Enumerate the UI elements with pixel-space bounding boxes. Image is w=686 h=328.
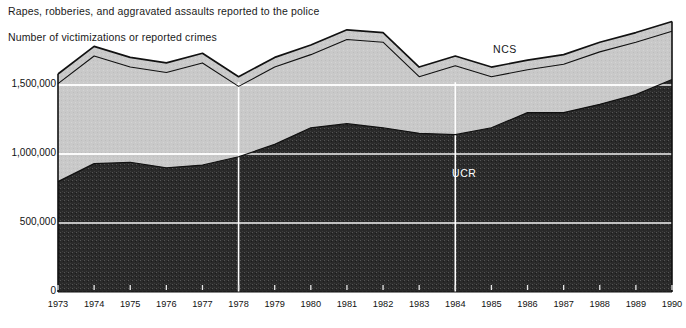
ncs-outline xyxy=(58,22,672,77)
series-label-ncs: NCS xyxy=(493,43,517,55)
x-axis-tick-label: 1990 xyxy=(662,299,682,309)
x-axis-tick-label: 1983 xyxy=(409,299,429,309)
ncs-area xyxy=(58,22,672,292)
x-axis-tick-label: 1979 xyxy=(264,299,284,309)
x-axis-tick-label: 1989 xyxy=(626,299,646,309)
y-axis-tick-label: 0 xyxy=(0,285,56,296)
area-chart-svg xyxy=(0,0,686,328)
x-axis-tick-label: 1986 xyxy=(517,299,537,309)
x-axis-tick-label: 1973 xyxy=(48,299,68,309)
chart-figure: Rapes, robberies, and aggravated assault… xyxy=(0,0,686,328)
ucr-outline xyxy=(58,79,672,181)
x-axis-tick-label: 1980 xyxy=(301,299,321,309)
x-axis-tick-label: 1976 xyxy=(156,299,176,309)
x-axis-tick-label: 1975 xyxy=(120,299,140,309)
x-axis-tick-label: 1984 xyxy=(445,299,465,309)
plot-area xyxy=(0,0,686,328)
x-axis-labels: 1973197419751976197719781979198019811982… xyxy=(0,299,686,313)
x-axis-tick-label: 1988 xyxy=(590,299,610,309)
y-axis-labels: 0500,0001,000,0001,500,000 xyxy=(0,0,56,328)
y-axis-tick-label: 1,500,000 xyxy=(0,78,56,89)
y-axis-tick-label: 1,000,000 xyxy=(0,147,56,158)
x-axis-tick-label: 1981 xyxy=(337,299,357,309)
x-axis-tick-label: 1987 xyxy=(553,299,573,309)
x-axis-tick-label: 1974 xyxy=(84,299,104,309)
x-axis-tick-label: 1978 xyxy=(228,299,248,309)
y-axis-tick-label: 500,000 xyxy=(0,216,56,227)
series-label-ucr: UCR xyxy=(452,167,477,179)
x-axis-tick-label: 1977 xyxy=(192,299,212,309)
ucr-area xyxy=(58,79,672,292)
x-axis-tick-label: 1982 xyxy=(373,299,393,309)
x-axis-tick-label: 1985 xyxy=(481,299,501,309)
